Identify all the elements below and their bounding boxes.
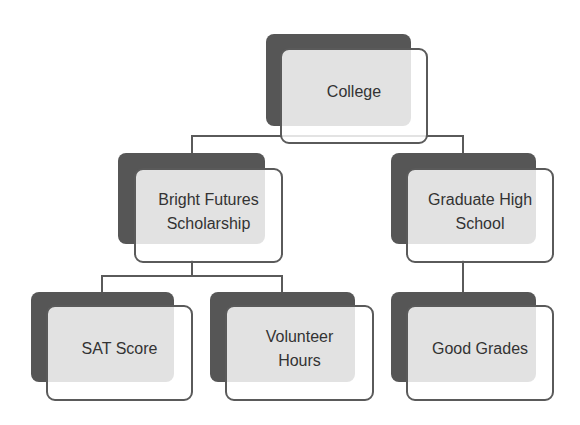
node-label: Good Grades <box>426 337 534 361</box>
node-box: College <box>280 48 428 144</box>
connector-to-graduate-high-school <box>462 135 464 154</box>
node-label: Graduate High School <box>412 188 549 236</box>
node-box: SAT Score <box>46 305 193 401</box>
org-chart-diagram: College Bright Futures Scholarship Gradu… <box>0 0 580 425</box>
node-box: Volunteer Hours <box>225 305 374 401</box>
connector-to-bright-futures <box>191 135 193 154</box>
node-label: Bright Futures Scholarship <box>140 188 277 236</box>
connector-to-sat-score <box>101 275 103 293</box>
connector-bright-futures-horizontal <box>101 275 283 277</box>
connector-to-good-grades <box>462 260 464 293</box>
node-box: Good Grades <box>406 305 554 401</box>
node-label: Volunteer Hours <box>244 325 356 373</box>
node-label: College <box>321 80 387 104</box>
node-box: Graduate High School <box>406 168 554 263</box>
node-box: Bright Futures Scholarship <box>134 168 283 263</box>
node-label: SAT Score <box>76 337 164 361</box>
connector-to-volunteer-hours <box>281 275 283 293</box>
